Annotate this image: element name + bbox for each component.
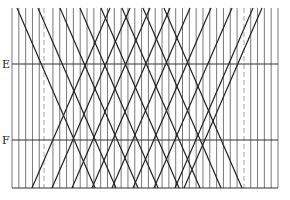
descending-diagonal bbox=[143, 8, 221, 188]
ascending-diagonal bbox=[175, 8, 253, 188]
horizontal-lines bbox=[12, 64, 278, 188]
ascending-diagonal bbox=[154, 8, 232, 188]
row-labels: E F bbox=[2, 58, 10, 147]
ascending-diagonal bbox=[133, 8, 211, 188]
ascending-diagonal bbox=[72, 8, 150, 188]
ascending-diagonal bbox=[52, 8, 130, 188]
descending-diagonal bbox=[101, 8, 179, 188]
descending-diagonal bbox=[80, 8, 158, 188]
descending-diagonal bbox=[60, 8, 138, 188]
ascending-diagonal bbox=[92, 8, 170, 188]
descending-diagonal bbox=[122, 8, 200, 188]
label-f: F bbox=[2, 134, 10, 147]
diagonal-lines bbox=[17, 8, 262, 188]
ascending-diagonal bbox=[112, 8, 190, 188]
label-e: E bbox=[2, 58, 10, 71]
line-diagram: E F bbox=[0, 0, 290, 200]
